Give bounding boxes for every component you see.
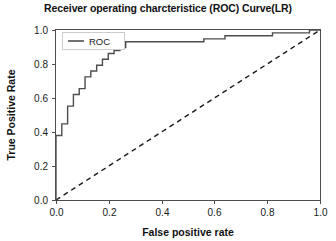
x-axis-tick-labels: 0.00.20.40.60.81.0 [50,207,328,218]
y-axis-title: True Positive Rate [5,69,17,160]
x-tick-label: 1.0 [314,207,328,218]
y-tick-label: 1.0 [34,25,48,36]
y-tick-label: 0.0 [34,195,48,206]
x-tick-label: 0.8 [261,207,275,218]
x-axis-title: False positive rate [142,226,234,238]
legend-label-roc: ROC [89,36,110,47]
x-tick-label: 0.2 [103,207,117,218]
y-tick-label: 0.8 [34,59,48,70]
roc-plot-area: 0.00.20.40.60.81.0 0.00.20.40.60.81.0 RO… [0,0,336,241]
x-tick-label: 0.6 [208,207,222,218]
y-tick-label: 0.2 [34,161,48,172]
x-tick-label: 0.4 [156,207,170,218]
chart-legend: ROC [63,33,125,50]
y-tick-label: 0.4 [34,127,48,138]
x-tick-label: 0.0 [50,207,64,218]
y-tick-label: 0.6 [34,93,48,104]
y-axis-tick-labels: 0.00.20.40.60.81.0 [34,25,48,206]
roc-chart-figure: Receiver operating charcteristice (ROC) … [0,0,336,241]
